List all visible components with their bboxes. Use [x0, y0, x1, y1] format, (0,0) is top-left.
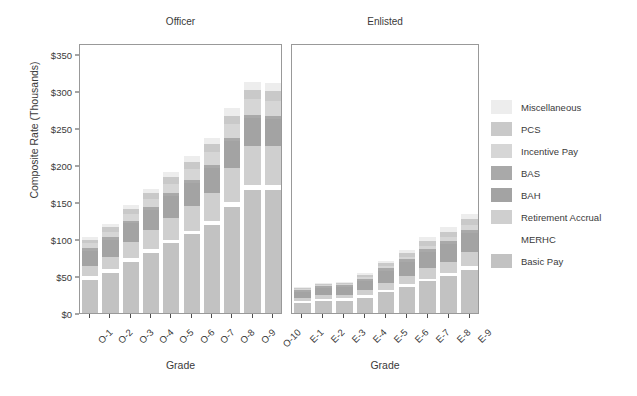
segment-basic-pay [378, 292, 395, 313]
segment-bah [265, 119, 281, 146]
segment-basic-pay [357, 298, 374, 313]
x-tick-mark [231, 314, 232, 318]
legend-item-bas[interactable]: BAS [491, 162, 637, 184]
bar-E-5[interactable] [378, 45, 395, 313]
segment-basic-pay [82, 280, 98, 313]
legend-label: MERHC [521, 234, 556, 245]
segment-bah [123, 223, 139, 241]
bar-O-7[interactable] [204, 45, 220, 313]
x-tick-mark [191, 314, 192, 318]
legend-item-pcs[interactable]: PCS [491, 118, 637, 140]
y-tick-label: $250 [51, 124, 72, 135]
x-tick-label-O-10: O-10 [280, 327, 303, 350]
legend-label: BAH [521, 190, 541, 201]
x-tick-label-E-7: E-7 [433, 327, 451, 345]
segment-incentive-pay [163, 184, 179, 194]
legend-item-miscellaneous[interactable]: Miscellaneous [491, 96, 637, 118]
segment-incentive-pay [204, 152, 220, 164]
y-tick-label: $0 [61, 309, 72, 320]
segment-bah [315, 288, 332, 295]
bar-E-2[interactable] [315, 45, 332, 313]
bar-O-2[interactable] [102, 45, 118, 313]
segment-basic-pay [102, 273, 118, 313]
panel-enlisted [291, 44, 479, 314]
segment-basic-pay [184, 234, 200, 313]
segment-miscellaneous [204, 138, 220, 145]
bar-O-3[interactable] [123, 45, 139, 313]
segment-basic-pay [440, 276, 457, 313]
x-tick-mark [211, 314, 212, 318]
segment-bah [357, 281, 374, 291]
segment-bah [184, 183, 200, 206]
segment-basic-pay [419, 281, 436, 313]
segment-retirement-accrual [265, 146, 281, 185]
bar-E-8[interactable] [440, 45, 457, 313]
x-tick-mark [322, 314, 323, 318]
legend-label: Miscellaneous [521, 102, 581, 113]
legend-item-basic-pay[interactable]: Basic Pay [491, 250, 637, 272]
segment-miscellaneous [224, 108, 240, 115]
x-tick-mark [272, 314, 273, 318]
segment-bah [163, 196, 179, 217]
segment-bah [440, 244, 457, 262]
segment-retirement-accrual [102, 257, 118, 269]
legend-label: Basic Pay [521, 256, 563, 267]
x-tick-label-O-6: O-6 [197, 327, 216, 346]
segment-retirement-accrual [419, 268, 436, 278]
segment-bah [224, 141, 240, 168]
segment-basic-pay [143, 253, 159, 313]
bar-E-7[interactable] [419, 45, 436, 313]
segment-retirement-accrual [82, 266, 98, 276]
segment-retirement-accrual [123, 242, 139, 258]
bar-E-1[interactable] [294, 45, 311, 313]
segment-pcs [265, 91, 281, 101]
bar-E-3[interactable] [336, 45, 353, 313]
legend-item-merhc[interactable]: MERHC [491, 228, 637, 250]
segment-basic-pay [336, 301, 353, 313]
segment-pcs [184, 162, 200, 169]
segment-incentive-pay [224, 124, 240, 138]
bar-E-4[interactable] [357, 45, 374, 313]
legend-swatch-miscellaneous [491, 100, 512, 114]
panel-title-officer: Officer [166, 16, 195, 27]
x-tick-mark [364, 314, 365, 318]
segment-retirement-accrual [378, 283, 395, 290]
legend-item-bah[interactable]: BAH [491, 184, 637, 206]
bar-E-9[interactable] [461, 45, 478, 313]
x-tick-mark [469, 314, 470, 318]
x-tick-mark [385, 314, 386, 318]
legend-label: Retirement Accrual [521, 212, 601, 223]
segment-incentive-pay [265, 101, 281, 116]
bar-O-9[interactable] [244, 45, 260, 313]
bar-O-6[interactable] [184, 45, 200, 313]
y-tick-label: $50 [56, 272, 72, 283]
bar-O-8[interactable] [224, 45, 240, 313]
segment-retirement-accrual [163, 218, 179, 240]
x-tick-mark [89, 314, 90, 318]
bar-E-6[interactable] [399, 45, 416, 313]
bar-O-4[interactable] [143, 45, 159, 313]
bar-O-10[interactable] [265, 45, 281, 313]
x-tick-label-O-3: O-3 [137, 327, 156, 346]
legend-item-incentive-pay[interactable]: Incentive Pay [491, 140, 637, 162]
x-tick-mark [448, 314, 449, 318]
x-tick-label-E-1: E-1 [308, 327, 326, 345]
legend-item-retirement-accrual[interactable]: Retirement Accrual [491, 206, 637, 228]
chart-root: Composite Rate (Thousands)$0$50$100$150$… [0, 0, 637, 396]
segment-incentive-pay [184, 169, 200, 180]
x-tick-label-O-9: O-9 [258, 327, 277, 346]
legend-swatch-merhc [491, 232, 512, 246]
x-tick-label-O-4: O-4 [157, 327, 176, 346]
segment-basic-pay [294, 303, 311, 313]
segment-bah [143, 210, 159, 230]
bar-O-5[interactable] [163, 45, 179, 313]
segment-basic-pay [224, 207, 240, 313]
segment-retirement-accrual [244, 146, 260, 185]
legend-label: Incentive Pay [521, 146, 578, 157]
bar-O-1[interactable] [82, 45, 98, 313]
segment-basic-pay [123, 262, 139, 313]
x-tick-label-E-4: E-4 [371, 327, 389, 345]
segment-retirement-accrual [204, 193, 220, 221]
segment-incentive-pay [123, 214, 139, 221]
segment-pcs [244, 90, 260, 100]
